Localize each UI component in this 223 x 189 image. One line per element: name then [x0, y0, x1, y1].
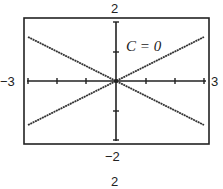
- plot-area: [0, 0, 223, 189]
- origin-point: [114, 79, 118, 83]
